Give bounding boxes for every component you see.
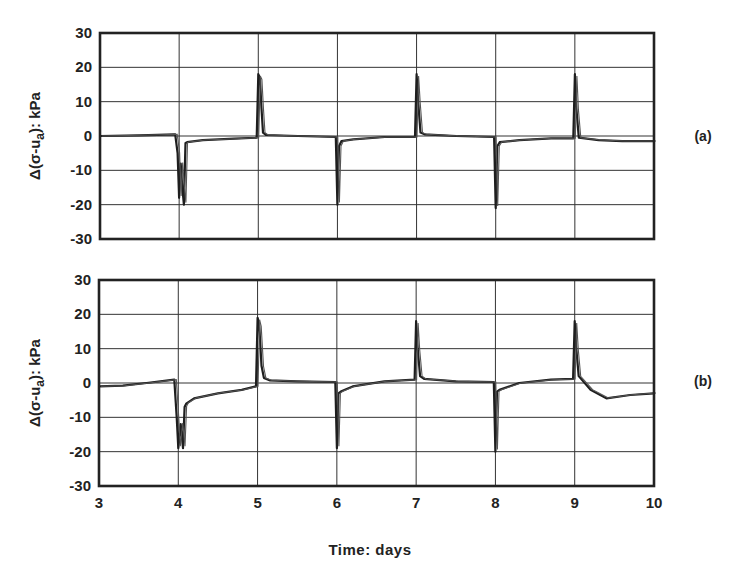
panel-a: 3020100-10-20-30Δ(σ-ua): kPa(a) <box>26 24 712 247</box>
x-tick-label: 4 <box>174 494 183 511</box>
y-tick-label: 10 <box>75 93 92 110</box>
x-tick-label: 3 <box>95 494 103 511</box>
data-series-line <box>100 74 654 208</box>
y-tick-label: -10 <box>70 161 92 178</box>
x-tick-label: 6 <box>333 494 341 511</box>
x-tick-label: 9 <box>571 494 579 511</box>
y-tick-label: 10 <box>74 340 91 357</box>
y-axis-title: Δ(σ-ua): kPa <box>26 338 47 426</box>
x-tick-label: 7 <box>412 494 420 511</box>
x-tick-label: 8 <box>491 494 499 511</box>
y-tick-label: -30 <box>69 477 91 494</box>
y-tick-label: 20 <box>74 305 91 322</box>
y-tick-label: -30 <box>70 230 92 247</box>
y-tick-label: 30 <box>74 271 91 288</box>
panel-label: (b) <box>694 373 712 389</box>
panel-label: (a) <box>694 128 711 144</box>
y-tick-label: 0 <box>83 374 91 391</box>
y-axis-title: Δ(σ-ua): kPa <box>26 91 47 179</box>
y-tick-label: 30 <box>75 24 92 41</box>
x-tick-label: 5 <box>253 494 261 511</box>
figure: 3020100-10-20-30Δ(σ-ua): kPa(a) 3020100-… <box>0 0 744 569</box>
panel-b: 3020100-10-20-30345678910Δ(σ-ua): kPa(b) <box>26 271 712 511</box>
y-tick-label: -10 <box>69 408 91 425</box>
y-tick-label: 0 <box>84 127 92 144</box>
y-tick-label: -20 <box>69 443 91 460</box>
y-tick-label: -20 <box>70 196 92 213</box>
y-tick-label: 20 <box>75 58 92 75</box>
x-axis-title: Time: days <box>328 541 411 558</box>
x-tick-label: 10 <box>646 494 663 511</box>
